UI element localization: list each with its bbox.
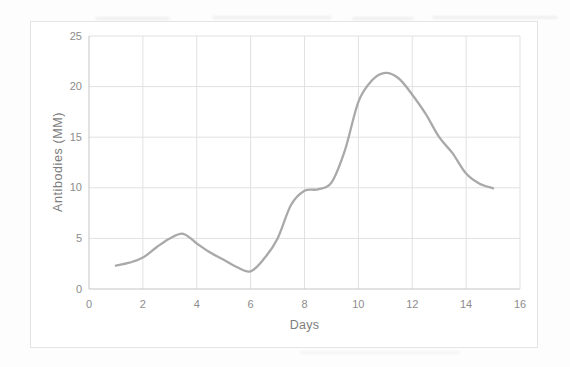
x-axis-title: Days <box>89 317 520 333</box>
x-tick-label: 14 <box>448 298 484 311</box>
x-tick-label: 10 <box>340 298 376 311</box>
y-axis-title: Antibodies (MM) <box>50 32 66 292</box>
x-tick-label: 6 <box>233 298 269 311</box>
x-tick-label: 4 <box>179 298 215 311</box>
screenshot-root: 0510152025 0246810121416 Antibodies (MM)… <box>0 0 570 367</box>
x-tick-label: 16 <box>502 298 538 311</box>
line-chart <box>0 0 570 367</box>
x-tick-label: 12 <box>394 298 430 311</box>
x-tick-label: 2 <box>125 298 161 311</box>
x-tick-label: 0 <box>71 298 107 311</box>
x-tick-label: 8 <box>287 298 323 311</box>
